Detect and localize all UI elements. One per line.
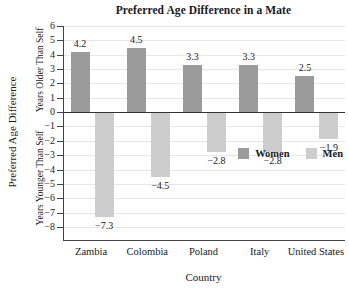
bar-women-italy [239,65,258,112]
bar-men-zambia [95,112,114,217]
value-label-women: 3.3 [173,51,213,63]
y-axis-tick-label: −8 [28,221,55,233]
y-axis-tick [57,170,63,171]
value-label-men: −7.3 [84,220,124,232]
y-axis-tick-label: −6 [28,192,55,204]
value-label-women: 2.5 [285,62,325,74]
y-axis-tick-label: 1 [28,92,55,104]
y-axis-tick [57,184,63,185]
category-label-colombia: Colombia [115,246,179,258]
value-label-women: 4.2 [60,38,100,50]
y-axis-tick-label: 3 [28,63,55,75]
y-axis-tick [57,213,63,214]
chart-title: Preferred Age Difference in a Mate [63,4,344,16]
legend: Women Men [238,148,343,159]
legend-item-women: Women [238,148,289,159]
y-axis-tick [57,198,63,199]
zero-baseline [64,112,345,114]
category-label-united-states: United States [284,246,348,258]
y-axis-tick-label: −7 [28,207,55,219]
y-axis-tick [57,126,63,127]
y-axis-tick-label: 0 [28,106,55,118]
bar-men-poland [207,112,226,152]
y-axis-tick-label: −3 [28,149,55,161]
y-axis-tick-label: 5 [28,34,55,46]
y-axis-tick-label: −5 [28,178,55,190]
y-axis-tick-label: −2 [28,135,55,147]
y-axis-tick-label: −1 [28,120,55,132]
gridline [64,40,345,41]
women-swatch [238,148,249,159]
plot-area: 6543210−1−2−3−4−5−6−7−84.2−7.34.5−4.53.3… [63,26,345,241]
y-axis-tick [57,26,63,27]
value-label-men: −2.8 [197,155,237,167]
bar-women-united-states [295,76,314,112]
gridline [64,26,345,27]
y-axis-tick [57,98,63,99]
y-axis-tick-label: −4 [28,164,55,176]
y-axis-title: Preferred Age Difference [6,77,18,188]
y-axis-tick-label: 6 [28,20,55,32]
value-label-women: 3.3 [229,51,269,63]
legend-label-men: Men [323,148,343,159]
y-axis-tick-label: 2 [28,77,55,89]
bar-men-colombia [151,112,170,177]
y-axis-tick [57,69,63,70]
y-axis-tick [57,112,63,113]
y-axis-tick [57,227,63,228]
bar-women-poland [183,65,202,112]
category-label-italy: Italy [228,246,292,258]
bar-men-united-states [319,112,338,139]
legend-item-men: Men [306,148,343,159]
y-axis-tick [57,141,63,142]
category-label-poland: Poland [172,246,236,258]
legend-label-women: Women [255,148,289,159]
y-axis-tick [57,83,63,84]
y-axis-tick-label: 4 [28,49,55,61]
value-label-women: 4.5 [116,34,156,46]
bar-men-italy [263,112,282,152]
age-difference-chart: Preferred Age Difference in a Mate Prefe… [0,0,349,295]
value-label-men: −4.5 [140,180,180,192]
y-axis-tick [57,155,63,156]
x-axis-title: Country [63,271,344,283]
bar-women-colombia [127,48,146,113]
y-axis-tick [57,55,63,56]
bar-women-zambia [71,52,90,112]
men-swatch [306,148,317,159]
category-label-zambia: Zambia [59,246,123,258]
